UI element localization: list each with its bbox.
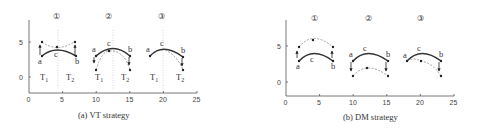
right-stage-2-label: ② xyxy=(365,14,372,23)
right-xtick-25: 25 xyxy=(450,99,458,106)
right-stage-1-label: ① xyxy=(311,14,318,23)
right-s1-point-a: a xyxy=(296,61,300,71)
right-xtick-5: 5 xyxy=(317,99,321,106)
left-s2-t2: T2 xyxy=(121,72,129,83)
left-s1-point-a: a xyxy=(38,56,42,66)
right-xtick-20: 20 xyxy=(416,99,424,106)
left-s1-t1: T1 xyxy=(40,72,48,83)
left-stage-2-label: ② xyxy=(105,12,112,21)
left-s3-point-c: c xyxy=(160,38,164,48)
left-xtick-25: 25 xyxy=(193,96,201,103)
left-stage-1: a c b T1 T2 xyxy=(38,41,79,83)
left-ytick-0: 0 xyxy=(19,74,23,81)
left-xtick-5: 5 xyxy=(60,96,64,103)
right-ytick-5: 5 xyxy=(277,43,281,50)
right-ytick-0: 0 xyxy=(277,79,281,86)
right-s3-point-a: a xyxy=(403,50,407,60)
right-s2-point-b: b xyxy=(386,49,390,59)
vt-strategy-panel: 5 0 0 5 10 15 20 25 ① ② ③ a xyxy=(19,12,200,120)
right-xtick-15: 15 xyxy=(383,99,391,106)
right-xtick-0: 0 xyxy=(284,99,288,106)
left-s2-point-c: c xyxy=(107,38,111,48)
right-s1-point-c: c xyxy=(310,54,314,64)
right-s3-point-c: c xyxy=(417,43,421,53)
right-stage-2: a c b xyxy=(349,43,390,77)
left-s2-point-a: a xyxy=(92,44,96,54)
left-xtick-20: 20 xyxy=(159,96,167,103)
right-caption: (b) DM strategy xyxy=(343,112,399,122)
right-stage-3: a c b xyxy=(403,43,443,77)
left-stage-2: a c b T1 T2 xyxy=(92,38,132,83)
left-s3-t2: T2 xyxy=(176,72,184,83)
right-s3-point-b: b xyxy=(439,49,443,59)
left-xtick-10: 10 xyxy=(92,96,100,103)
left-s2-t1: T1 xyxy=(95,72,103,83)
left-s1-point-c: c xyxy=(54,49,58,59)
left-stage-3-label: ③ xyxy=(158,12,165,21)
left-ytick-5: 5 xyxy=(19,39,23,46)
dm-strategy-panel: 5 0 0 5 10 15 20 25 ① ② ③ a c b xyxy=(277,14,457,122)
right-s2-point-c: c xyxy=(363,43,367,53)
left-s3-point-a: a xyxy=(146,44,150,54)
left-s2-point-b: b xyxy=(128,44,132,54)
left-caption: (a) VT strategy xyxy=(78,110,130,120)
right-stage-1: a c b xyxy=(296,39,335,72)
left-s1-point-b: b xyxy=(75,56,79,66)
left-stage-1-label: ① xyxy=(53,12,60,21)
right-xtick-10: 10 xyxy=(349,99,357,106)
left-s3-t1: T1 xyxy=(150,72,158,83)
right-stage-3-label: ③ xyxy=(417,14,424,23)
left-xtick-15: 15 xyxy=(126,96,134,103)
left-xtick-0: 0 xyxy=(27,96,31,103)
left-stage-3: a c b T1 T2 xyxy=(146,38,185,83)
figure: 5 0 0 5 10 15 20 25 ① ② ③ a xyxy=(0,0,481,129)
left-s3-point-b: b xyxy=(181,45,185,55)
right-s2-point-a: a xyxy=(349,49,353,59)
left-s1-t2: T2 xyxy=(66,72,74,83)
right-s1-point-b: b xyxy=(331,61,335,71)
